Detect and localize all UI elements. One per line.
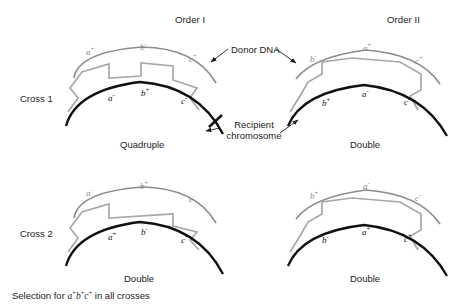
allele-cross1-order1-recipient-c: c-	[181, 97, 187, 106]
allele-sign: +	[91, 45, 95, 52]
allele-cross1-order1-donor-a: a+	[86, 48, 94, 57]
allele-cross2-order1-recipient-b: b-	[141, 228, 148, 237]
allele-sign: +	[145, 179, 149, 186]
allele-sign: -	[146, 225, 148, 232]
allele-cross2-order2-recipient-c: c+	[404, 235, 412, 244]
recipient-chromosome-label-line2: chromosome	[211, 130, 297, 141]
allele-sign: +	[408, 232, 412, 239]
recipient-chromosome-label-line1: Recipient	[211, 119, 297, 130]
caption-genotype-a: a+	[67, 291, 75, 301]
outcome-cross2-order1: Double	[124, 273, 154, 284]
allele-sign: -	[419, 191, 421, 198]
allele-sign: +	[185, 233, 189, 240]
allele-cross1-order2-donor-a: a+	[363, 44, 371, 53]
caption-genotype-c: c+	[84, 291, 92, 301]
allele-sign: +	[315, 189, 319, 196]
allele-sign: -	[145, 40, 147, 47]
caption-suffix: in all crosses	[92, 290, 150, 301]
allele-cross2-order1-recipient-c: c+	[181, 236, 189, 245]
outcome-cross1-order2: Double	[350, 139, 380, 150]
allele-sign: -	[315, 52, 317, 59]
allele-sign: +	[113, 230, 117, 237]
allele-cross1-order2-recipient-b: b+	[322, 99, 330, 108]
allele-cross2-order1-recipient-a: a+	[108, 233, 116, 242]
allele-cross2-order2-donor-a: a-	[363, 182, 370, 191]
allele-cross1-order2-recipient-c: c-	[404, 98, 410, 107]
allele-cross1-order1-recipient-a: a-	[108, 94, 115, 103]
allele-cross2-order1-donor-a: a-	[86, 189, 93, 198]
caption-prefix: Selection for	[12, 290, 67, 301]
outcome-cross1-order1: Quadruple	[120, 139, 164, 150]
allele-sign: +	[327, 96, 331, 103]
outcome-cross2-order2: Double	[350, 273, 380, 284]
allele-cross2-order2-donor-c: c-	[415, 194, 421, 203]
allele-sign: +	[193, 52, 197, 59]
allele-sign: +	[146, 86, 150, 93]
donor-dna-label: Donor DNA	[231, 44, 280, 55]
recipient-chromosome-label: Recipient chromosome	[211, 119, 297, 141]
row-label-cross-2: Cross 2	[20, 228, 53, 239]
allele-cross1-order2-recipient-a: a-	[362, 90, 369, 99]
allele-cross2-order2-recipient-a: a+	[362, 228, 370, 237]
allele-sign: -	[367, 87, 369, 94]
allele-sign: +	[367, 225, 371, 232]
allele-cross2-order1-donor-b: b+	[140, 182, 148, 191]
allele-cross2-order2-recipient-b: b-	[322, 236, 329, 245]
column-header-order-1: Order I	[175, 14, 205, 25]
allele-sign: -	[408, 95, 410, 102]
allele-sign: +	[419, 54, 423, 61]
allele-cross1-order2-donor-b: b-	[310, 55, 317, 64]
allele-cross1-order1-recipient-b: b+	[141, 89, 149, 98]
allele-sign: -	[327, 233, 329, 240]
crossover-path	[68, 204, 199, 252]
crossover-path	[68, 63, 199, 112]
allele-sign: -	[368, 179, 370, 186]
allele-sign: -	[91, 186, 93, 193]
column-header-order-2: Order II	[387, 14, 420, 25]
diagram-canvas: Order I Order II Cross 1 Cross 2 Donor D…	[0, 0, 463, 307]
allele-cross2-order1-donor-c: c-	[189, 195, 195, 204]
figure-caption: Selection for a+b+c+ in all crosses	[12, 290, 150, 301]
allele-sign: -	[113, 91, 115, 98]
allele-cross1-order1-donor-c: c+	[189, 55, 197, 64]
allele-sign: -	[193, 192, 195, 199]
allele-sign: -	[185, 94, 187, 101]
row-label-cross-1: Cross 1	[20, 93, 53, 104]
allele-sign: +	[368, 41, 372, 48]
allele-cross1-order2-donor-c: c+	[415, 57, 423, 66]
allele-cross2-order2-donor-b: b+	[310, 192, 318, 201]
allele-cross1-order1-donor-b: b-	[140, 43, 147, 52]
donor-dna-leader-left	[211, 49, 228, 62]
